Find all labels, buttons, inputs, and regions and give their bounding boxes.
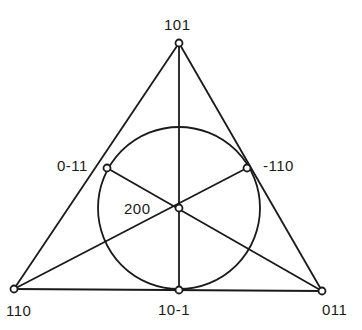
label-110: 110 (6, 302, 31, 319)
label-200: 200 (124, 200, 151, 217)
node--110 (244, 165, 251, 172)
node-101 (176, 40, 183, 47)
node-0-11 (104, 165, 111, 172)
node-10-1 (176, 287, 183, 294)
node-200 (176, 205, 183, 212)
node-011 (319, 288, 326, 295)
label-10-1: 10-1 (158, 301, 190, 318)
edge-top-bottom-left (14, 43, 179, 289)
label-101: 101 (164, 16, 191, 33)
edge-bottom (14, 289, 322, 291)
node-110 (11, 286, 18, 293)
median-bottom-right (107, 168, 322, 291)
label-0-11: 0-11 (57, 157, 88, 174)
fano-diagram: 101 110 011 0-11 -110 10-1 200 (0, 0, 362, 330)
label-011: 011 (322, 301, 347, 318)
label--110: -110 (263, 157, 294, 174)
